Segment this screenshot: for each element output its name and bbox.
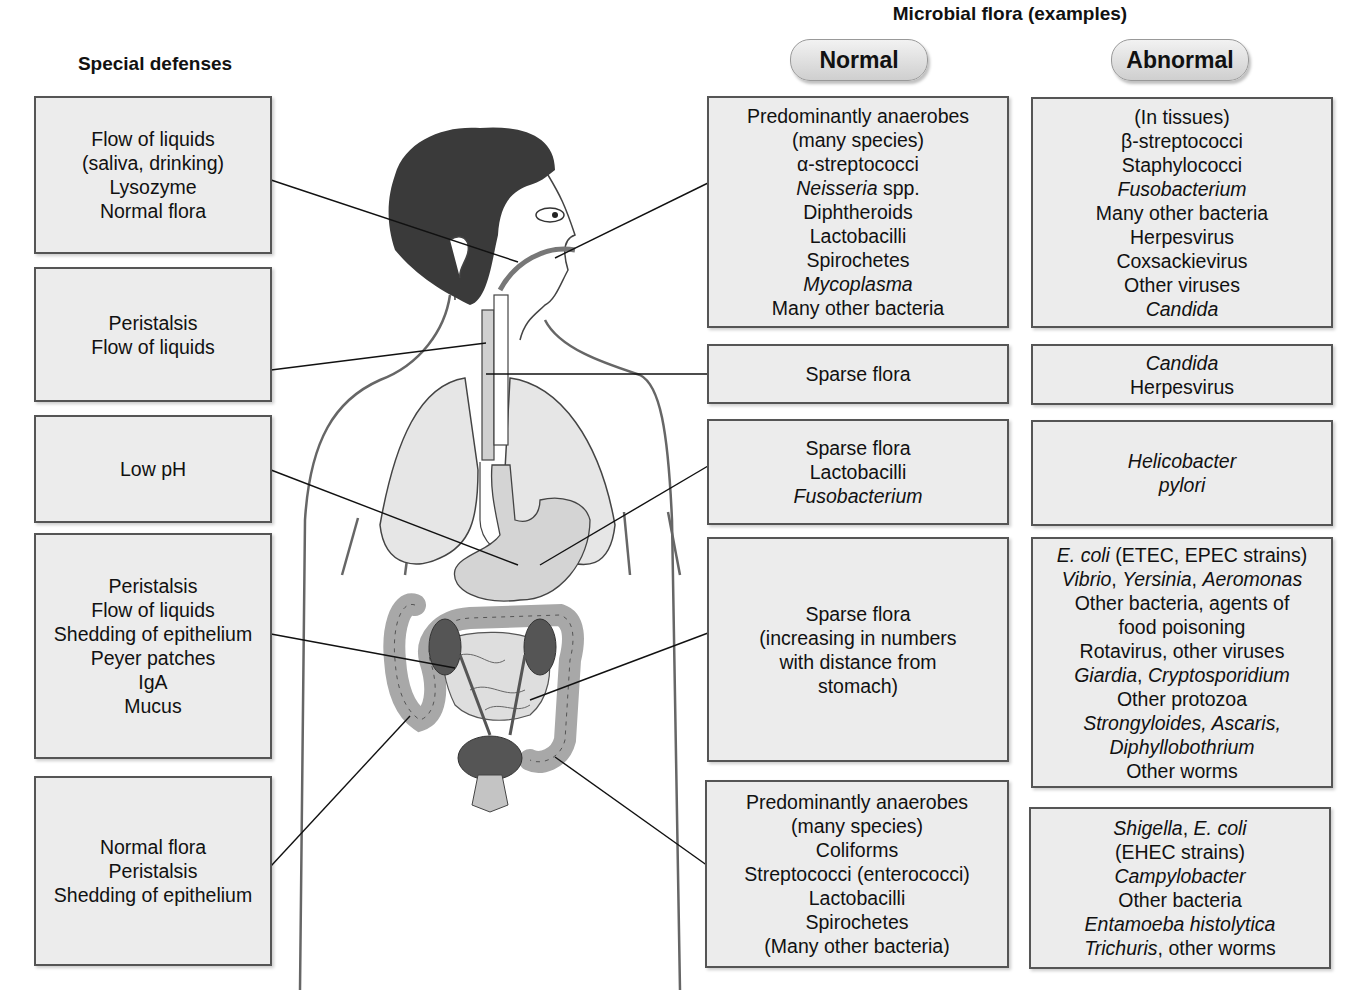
text-line: Sparse flora — [805, 362, 910, 386]
text-line: Mucus — [124, 694, 181, 718]
abnormal-flora-mouth: (In tissues) β-streptococci Staphylococc… — [1031, 97, 1333, 328]
text-line: Helicobacter — [1128, 449, 1236, 473]
text-line: Peristalsis — [109, 859, 198, 883]
text-line: Coxsackievirus — [1116, 249, 1247, 273]
trachea — [494, 295, 508, 445]
defenses-small-intestine: Peristalsis Flow of liquids Shedding of … — [34, 533, 272, 759]
abnormal-flora-small-intestine: E. coli (ETEC, EPEC strains) Vibrio, Yer… — [1031, 537, 1333, 788]
esophagus — [482, 310, 494, 460]
text-line: pylori — [1159, 473, 1206, 497]
text-line: Predominantly anaerobes — [747, 104, 969, 128]
abnormal-flora-esophagus: Candida Herpesvirus — [1031, 344, 1333, 405]
text-line: Fusobacterium — [1118, 177, 1247, 201]
text-line: Normal flora — [100, 199, 206, 223]
text-line: Peristalsis — [109, 574, 198, 598]
defenses-esophagus: Peristalsis Flow of liquids — [34, 267, 272, 402]
text-line: Low pH — [120, 457, 186, 481]
text-line: Herpesvirus — [1130, 225, 1234, 249]
text-line: Lactobacilli — [810, 224, 906, 248]
abnormal-flora-stomach: Helicobacter pylori — [1031, 420, 1333, 526]
abnormal-flora-large-intestine: Shigella, E. coli (EHEC strains) Campylo… — [1029, 807, 1331, 969]
text-line: Campylobacter — [1114, 864, 1245, 888]
text-line: Other bacteria — [1118, 888, 1242, 912]
text-line: Staphylococci — [1122, 153, 1242, 177]
text-line: Other protozoa — [1117, 687, 1247, 711]
text-line: Lactobacilli — [810, 460, 906, 484]
text-line: stomach) — [818, 674, 898, 698]
text-line: Lysozyme — [109, 175, 196, 199]
text-line: Candida — [1146, 297, 1219, 321]
text-line: (In tissues) — [1134, 105, 1229, 129]
text-line: (Many other bacteria) — [764, 934, 949, 958]
text-line: with distance from — [779, 650, 936, 674]
normal-flora-stomach: Sparse flora Lactobacilli Fusobacterium — [707, 419, 1009, 525]
normal-flora-large-intestine: Predominantly anaerobes (many species) C… — [705, 780, 1009, 968]
text-line-neisseria: Neisseria spp. — [796, 176, 920, 200]
text-line: Peristalsis — [109, 311, 198, 335]
normal-flora-esophagus: Sparse flora — [707, 344, 1009, 404]
text-line: Shedding of epithelium — [54, 622, 252, 646]
text-line: Peyer patches — [91, 646, 216, 670]
text-line: Entamoeba histolytica — [1085, 912, 1276, 936]
text-line: Sparse flora — [805, 436, 910, 460]
bladder — [458, 736, 522, 780]
text-line: β-streptococci — [1121, 129, 1243, 153]
text-line: α-streptococci — [797, 152, 919, 176]
text-line: Diphyllobothrium — [1109, 735, 1254, 759]
text-line: Other bacteria, agents of — [1075, 591, 1290, 615]
text-line: Spirochetes — [806, 910, 909, 934]
text-line: Coliforms — [816, 838, 898, 862]
text-line-vibrio: Vibrio, Yersinia, Aeromonas — [1062, 567, 1302, 591]
normal-flora-small-intestine: Sparse flora (increasing in numbers with… — [707, 537, 1009, 762]
text-line: Strongyloides, Ascaris, — [1083, 711, 1281, 735]
text-line: Mycoplasma — [803, 272, 912, 296]
text-line: Many other bacteria — [1096, 201, 1268, 225]
normal-flora-mouth: Predominantly anaerobes (many species) α… — [707, 96, 1009, 328]
text-line: Many other bacteria — [772, 296, 944, 320]
text-line: Lactobacilli — [809, 886, 905, 910]
text-line: (saliva, drinking) — [82, 151, 224, 175]
text-line-ecoli: E. coli (ETEC, EPEC strains) — [1057, 543, 1307, 567]
text-line: (increasing in numbers — [759, 626, 956, 650]
text-line: Shedding of epithelium — [54, 883, 252, 907]
defenses-mouth: Flow of liquids (saliva, drinking) Lysoz… — [34, 96, 272, 254]
text-line: Fusobacterium — [794, 484, 923, 508]
text-line: Candida — [1146, 351, 1219, 375]
text-line: Rotavirus, other viruses — [1080, 639, 1285, 663]
text-line: Sparse flora — [805, 602, 910, 626]
defenses-stomach: Low pH — [34, 415, 272, 523]
text-line: Predominantly anaerobes — [746, 790, 968, 814]
text-line-shigella: Shigella, E. coli — [1113, 816, 1246, 840]
defenses-large-intestine: Normal flora Peristalsis Shedding of epi… — [34, 776, 272, 966]
text-line: (many species) — [791, 814, 923, 838]
text-line-giardia: Giardia, Cryptosporidium — [1074, 663, 1290, 687]
right-kidney — [524, 619, 556, 675]
text-line: (EHEC strains) — [1115, 840, 1245, 864]
text-line: Other viruses — [1124, 273, 1240, 297]
text-line: IgA — [138, 670, 167, 694]
text-line: Flow of liquids — [91, 127, 215, 151]
text-line: food poisoning — [1119, 615, 1246, 639]
text-line: Streptococci (enterococci) — [744, 862, 969, 886]
text-line: Flow of liquids — [91, 335, 215, 359]
text-line: Herpesvirus — [1130, 375, 1234, 399]
text-line: Diphtheroids — [803, 200, 912, 224]
text-line: Flow of liquids — [91, 598, 215, 622]
text-line: Spirochetes — [807, 248, 910, 272]
text-line: Other worms — [1126, 759, 1238, 783]
text-line-trichuris: Trichuris, other worms — [1084, 936, 1275, 960]
left-lung — [380, 378, 478, 564]
text-line: Normal flora — [100, 835, 206, 859]
text-line: (many species) — [792, 128, 924, 152]
